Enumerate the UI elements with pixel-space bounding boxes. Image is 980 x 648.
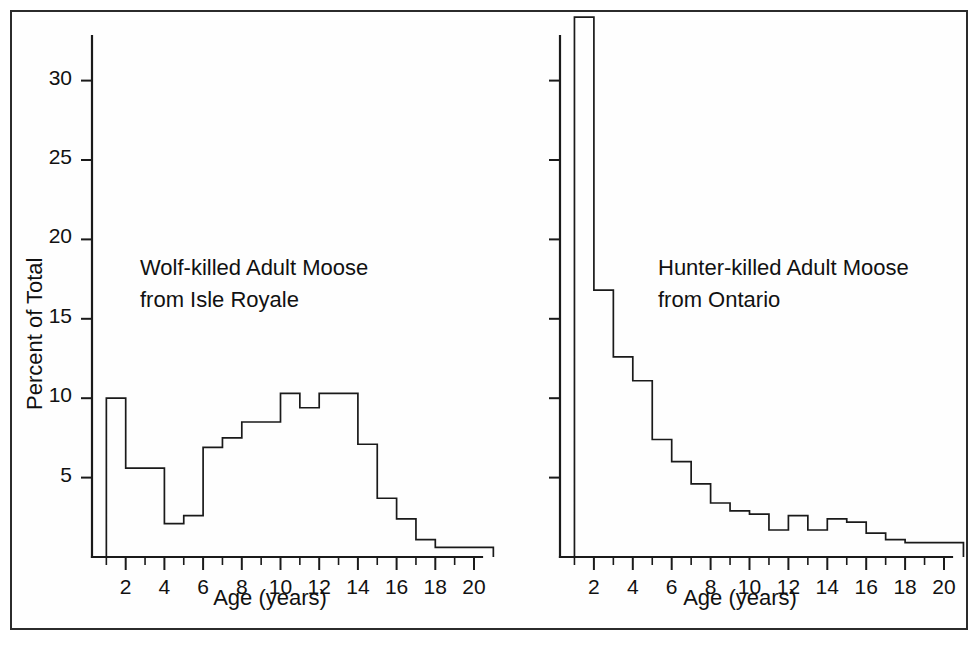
x-axis-tick-label: 16 — [380, 575, 414, 599]
annotation-line-2: from Ontario — [658, 284, 909, 316]
x-axis-tick-label: 14 — [341, 575, 375, 599]
x-axis-tick-label: 18 — [888, 575, 922, 599]
x-axis-tick-label: 20 — [457, 575, 491, 599]
hunter-killed-plot-svg — [500, 0, 980, 648]
y-axis-tick-label: 15 — [28, 304, 72, 328]
wolf-killed-plot-svg — [0, 0, 520, 648]
histogram-outline — [106, 393, 493, 557]
y-axis-tick-label: 30 — [28, 66, 72, 90]
x-axis-tick-label: 2 — [109, 575, 143, 599]
x-axis-tick-label: 18 — [418, 575, 452, 599]
y-axis-tick-label: 20 — [28, 224, 72, 248]
x-axis-tick-label: 16 — [849, 575, 883, 599]
x-axis-tick-label: 12 — [771, 575, 805, 599]
x-axis-tick-label: 8 — [225, 575, 259, 599]
annotation-line-1: Wolf-killed Adult Moose — [140, 252, 368, 284]
chart-panel-wolf-killed: Percent of Total Age (years) Wolf-killed… — [0, 0, 520, 648]
y-axis-tick-label: 5 — [28, 463, 72, 487]
x-axis-tick-label: 10 — [264, 575, 298, 599]
x-axis-tick-label: 4 — [147, 575, 181, 599]
y-axis-tick-label: 25 — [28, 145, 72, 169]
x-axis-tick-label: 20 — [927, 575, 961, 599]
x-axis-tick-label: 6 — [186, 575, 220, 599]
x-axis-tick-label: 8 — [694, 575, 728, 599]
chart-panel-hunter-killed: Age (years) Hunter-killed Adult Moose fr… — [500, 0, 980, 648]
annotation-line-2: from Isle Royale — [140, 284, 368, 316]
panel-annotation-wolf: Wolf-killed Adult Moose from Isle Royale — [140, 252, 368, 316]
x-axis-tick-label: 2 — [577, 575, 611, 599]
x-axis-tick-label: 4 — [616, 575, 650, 599]
annotation-line-1: Hunter-killed Adult Moose — [658, 252, 909, 284]
figure-canvas: Percent of Total Age (years) Wolf-killed… — [0, 0, 980, 648]
panel-annotation-hunter: Hunter-killed Adult Moose from Ontario — [658, 252, 909, 316]
x-axis-tick-label: 14 — [810, 575, 844, 599]
y-axis-tick-label: 10 — [28, 383, 72, 407]
x-axis-tick-label: 12 — [302, 575, 336, 599]
x-axis-tick-label: 6 — [655, 575, 689, 599]
x-axis-tick-label: 10 — [733, 575, 767, 599]
